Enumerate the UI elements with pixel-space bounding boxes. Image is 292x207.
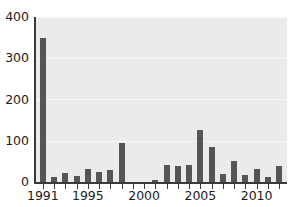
bar-1997 <box>107 170 113 182</box>
bars-layer <box>35 17 287 182</box>
x-tick-label-2000: 2000 <box>124 190 164 203</box>
bar-2006 <box>209 147 215 182</box>
bar-2004 <box>186 165 192 182</box>
x-tick-2007 <box>223 184 224 189</box>
bar-2012 <box>276 166 282 183</box>
bar-1996 <box>96 172 102 182</box>
y-tick-label-100: 100 <box>0 135 29 148</box>
y-tick-label-300: 300 <box>0 52 29 65</box>
x-tick-2008 <box>234 184 235 189</box>
bar-2002 <box>164 165 170 182</box>
bar-2009 <box>242 175 248 182</box>
bar-2003 <box>175 166 181 182</box>
bar-1998 <box>119 143 125 182</box>
x-tick-2003 <box>178 184 179 189</box>
bar-2005 <box>197 130 203 182</box>
x-tick-1993 <box>65 184 66 189</box>
x-tick-label-2005: 2005 <box>180 190 220 203</box>
y-tick-label-400: 400 <box>0 11 29 24</box>
bar-1995 <box>85 169 91 182</box>
bar-chart: 0100200300400 19911995200020052010 <box>0 0 292 207</box>
bar-1993 <box>62 173 68 182</box>
x-tick-label-1991: 1991 <box>23 190 63 203</box>
y-axis-line <box>34 17 36 183</box>
x-tick-2012 <box>279 184 280 189</box>
x-tick-label-1995: 1995 <box>68 190 108 203</box>
x-tick-1998 <box>122 184 123 189</box>
x-axis-line <box>34 182 287 184</box>
x-tick-1997 <box>110 184 111 189</box>
bar-2010 <box>254 169 260 182</box>
bar-1991 <box>40 38 46 182</box>
bar-2007 <box>220 174 226 182</box>
x-tick-2002 <box>167 184 168 189</box>
x-tick-label-2010: 2010 <box>237 190 277 203</box>
y-tick-label-200: 200 <box>0 94 29 107</box>
y-tick-label-0: 0 <box>0 176 29 189</box>
bar-2008 <box>231 161 237 182</box>
